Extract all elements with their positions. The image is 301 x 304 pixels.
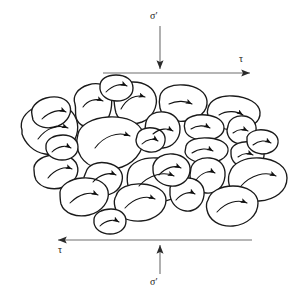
shear-stress-top-label: τ	[239, 54, 243, 64]
soil-particle	[100, 75, 133, 101]
soil-particle	[46, 135, 78, 160]
soil-particle	[206, 186, 258, 226]
shear-stress-bottom-label: τ	[58, 245, 62, 255]
soil-particle	[60, 178, 108, 216]
soil-particle-shear-diagram: σ′ τ τ σ′	[0, 0, 301, 304]
soil-particle	[94, 209, 126, 234]
soil-particle	[184, 115, 224, 140]
soil-particle	[77, 117, 144, 170]
diagram-canvas	[0, 0, 301, 304]
soil-particle	[247, 130, 278, 154]
normal-stress-top-label: σ′	[150, 11, 158, 21]
particle-cluster	[21, 75, 287, 234]
soil-particle	[153, 154, 190, 186]
normal-stress-bottom-label: σ′	[150, 277, 158, 287]
